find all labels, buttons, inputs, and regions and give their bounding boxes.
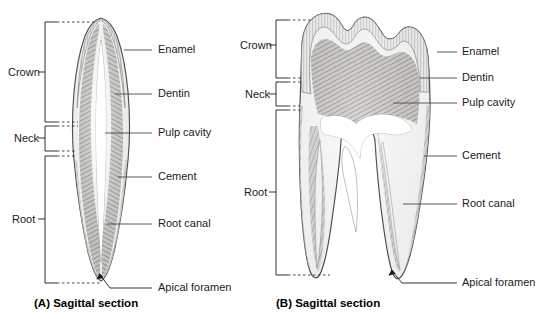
bracket-label-neck-a: Neck bbox=[14, 132, 39, 144]
label-cement-a: Cement bbox=[158, 171, 197, 182]
label-dentin-b: Dentin bbox=[462, 72, 494, 83]
caption-panel-a: (A) Sagittal section bbox=[34, 297, 138, 309]
molar-furcation bbox=[342, 146, 358, 232]
label-enamel-a: Enamel bbox=[158, 44, 195, 55]
bracket-label-root-a: Root bbox=[12, 213, 35, 225]
label-dentin-a: Dentin bbox=[158, 88, 190, 99]
label-apical-foramen-b: Apical foramen bbox=[462, 277, 535, 288]
molar-shading bbox=[299, 13, 430, 278]
bracket-label-crown-b: Crown bbox=[240, 39, 272, 51]
label-root-canal-a: Root canal bbox=[158, 218, 211, 229]
label-apical-foramen-a: Apical foramen bbox=[158, 282, 231, 293]
label-cement-b: Cement bbox=[462, 150, 501, 161]
figure-canvas: Crown Neck Root Enamel Dentin Pulp cavit… bbox=[0, 0, 541, 319]
bracket-label-neck-b: Neck bbox=[245, 88, 270, 100]
molar-tooth-b bbox=[299, 13, 430, 278]
bracket-label-crown-a: Crown bbox=[8, 66, 40, 78]
label-pulp-cavity-b: Pulp cavity bbox=[462, 97, 515, 108]
label-pulp-cavity-a: Pulp cavity bbox=[158, 127, 211, 138]
caption-panel-b: (B) Sagittal section bbox=[276, 297, 380, 309]
label-enamel-b: Enamel bbox=[462, 46, 499, 57]
label-root-canal-b: Root canal bbox=[462, 198, 515, 209]
incisor-tooth-a bbox=[73, 18, 130, 281]
bracket-label-root-b: Root bbox=[244, 186, 267, 198]
